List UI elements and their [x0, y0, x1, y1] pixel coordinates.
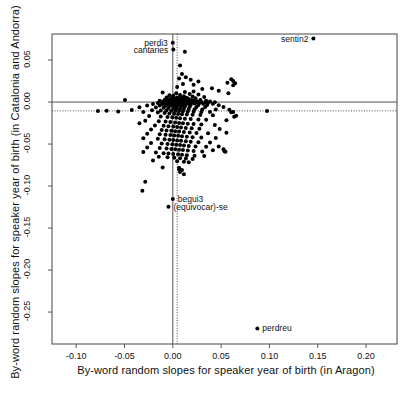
data-points — [96, 37, 316, 331]
point-label: perdreu — [262, 323, 291, 333]
x-tick-label: -0.05 — [114, 351, 135, 361]
x-tick-label: 0.20 — [357, 351, 375, 361]
y-tick-label: -0.10 — [22, 170, 32, 200]
reference-lines — [52, 34, 397, 344]
plot-frame — [52, 34, 397, 344]
point-label: sentin2 — [281, 34, 308, 44]
y-axis-title: By-word random slopes for speaker year o… — [9, 0, 21, 389]
x-axis-title: By-word random slopes for speaker year o… — [40, 364, 412, 376]
x-tick-label: -0.10 — [66, 351, 87, 361]
x-tick-label: 0.15 — [309, 351, 327, 361]
y-tick-label: -0.15 — [22, 212, 32, 242]
point-label: (equivocar)-se — [173, 202, 227, 212]
y-tick-label: -0.20 — [22, 254, 32, 284]
plot-canvas — [0, 0, 412, 394]
y-tick-label: -0.05 — [22, 128, 32, 158]
y-tick-label: -0.25 — [22, 296, 32, 326]
y-tick-label: 0.00 — [22, 86, 32, 116]
point-label: cantaries — [134, 45, 169, 55]
x-tick-label: 0.05 — [212, 351, 230, 361]
y-tick-label: 0.05 — [22, 44, 32, 74]
scatter-plot-figure: -0.10-0.050.000.050.100.150.20 0.050.00-… — [0, 0, 412, 394]
x-tick-label: 0.10 — [261, 351, 279, 361]
x-tick-label: 0.00 — [164, 351, 182, 361]
